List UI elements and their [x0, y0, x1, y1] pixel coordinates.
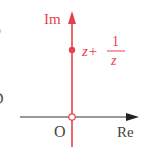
real-axis-arrowhead — [126, 113, 139, 121]
point-label-prefix: z+ — [81, 43, 98, 59]
imaginary-axis-label: Im — [44, 11, 61, 27]
origin-label: O — [54, 123, 66, 140]
real-axis-label: Re — [117, 124, 134, 140]
origin-marker — [69, 114, 75, 120]
point-label-denominator: z — [110, 53, 117, 68]
imaginary-axis-arrowhead — [68, 11, 76, 24]
complex-plane-diagram: Im z+ 1 z O Re — [0, 0, 142, 156]
point-z-plus-inverse — [69, 47, 75, 53]
point-label-numerator: 1 — [112, 34, 119, 49]
